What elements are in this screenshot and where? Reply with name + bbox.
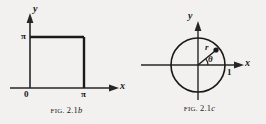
y-axis-b bbox=[27, 13, 34, 88]
figure-c-caption-number: 2.1 bbox=[200, 103, 211, 113]
terminal-point bbox=[213, 47, 218, 52]
x-axis-label: x bbox=[245, 58, 250, 68]
radius-label: r bbox=[205, 43, 209, 52]
figure-b-caption: Fig. 2.1b bbox=[0, 105, 133, 115]
figure-b-caption-letter: b bbox=[78, 105, 82, 115]
unit-tick-label: 1 bbox=[227, 68, 232, 77]
y-axis-c bbox=[195, 21, 202, 100]
x-tick-pi-label: π bbox=[81, 90, 86, 99]
figure-2-1c: y x r θ 1 Fig. 2.1c bbox=[133, 0, 266, 124]
angle-theta-label: θ bbox=[208, 55, 213, 64]
figure-c-caption-prefix: Fig. bbox=[184, 105, 198, 113]
figure-b-caption-number: 2.1 bbox=[67, 105, 78, 115]
textbook-figure-pair: y x π 0 π Fig. 2.1b bbox=[0, 0, 266, 124]
figure-c-caption: Fig. 2.1c bbox=[133, 103, 266, 113]
figure-c-caption-letter: c bbox=[211, 103, 215, 113]
y-axis-label: y bbox=[33, 4, 37, 14]
figure-b-caption-prefix: Fig. bbox=[51, 107, 65, 115]
x-axis-label: x bbox=[120, 81, 125, 91]
y-axis-label: y bbox=[188, 11, 192, 21]
y-tick-pi-label: π bbox=[21, 32, 26, 41]
pulse-curve-b bbox=[30, 37, 84, 88]
figure-2-1b: y x π 0 π Fig. 2.1b bbox=[0, 0, 133, 124]
origin-label: 0 bbox=[24, 90, 29, 99]
